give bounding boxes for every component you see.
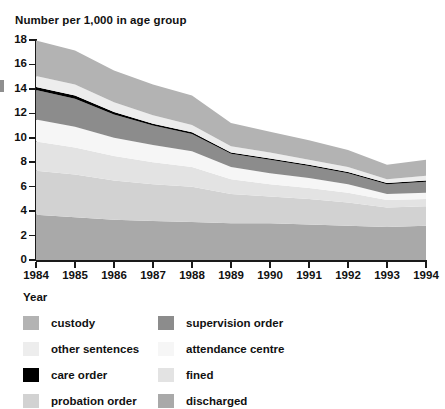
x-axis-tick	[230, 262, 232, 268]
y-axis-tick-label: 6	[1, 181, 27, 193]
x-axis-tick	[35, 262, 37, 268]
chart-page: Number per 1,000 in age group 1816141210…	[0, 0, 445, 409]
legend-swatch-icon	[158, 316, 174, 330]
y-axis-tick-label: 0	[1, 254, 27, 266]
y-axis-tick-label: 16	[1, 58, 27, 70]
legend-item-attendance-centre[interactable]: attendance centre	[158, 342, 378, 356]
legend-item-label: discharged	[186, 395, 247, 407]
legend-item-fined[interactable]: fined	[158, 368, 378, 382]
plot-area	[36, 40, 426, 260]
x-axis-tick-label: 1988	[170, 270, 214, 282]
y-axis-tick-label: 10	[1, 132, 27, 144]
legend-item-custody[interactable]: custody	[23, 316, 158, 330]
legend-swatch-icon	[23, 368, 39, 382]
x-axis-tick-label: 1984	[14, 270, 58, 282]
legend-swatch-icon	[23, 342, 39, 356]
x-axis-tick-label: 1991	[287, 270, 331, 282]
x-axis-tick	[386, 262, 388, 268]
x-axis-tick	[269, 262, 271, 268]
y-axis-tick-label: 14	[1, 83, 27, 95]
y-axis-tick	[29, 113, 35, 115]
y-axis-tick	[29, 64, 35, 66]
x-axis-tick-label: 1990	[248, 270, 292, 282]
x-axis-tick	[425, 262, 427, 268]
legend-item-supervision-order[interactable]: supervision order	[158, 316, 378, 330]
legend-swatch-icon	[158, 394, 174, 408]
y-axis-tick	[29, 186, 35, 188]
legend-item-label: attendance centre	[186, 343, 284, 355]
legend-item-probation-order[interactable]: probation order	[23, 394, 158, 408]
x-axis-tick-label: 1993	[365, 270, 409, 282]
legend-swatch-icon	[23, 394, 39, 408]
x-axis-tick	[74, 262, 76, 268]
legend-row: custodysupervision order	[23, 310, 423, 336]
y-axis-tick	[29, 259, 35, 261]
legend-swatch-icon	[158, 368, 174, 382]
x-axis-tick	[113, 262, 115, 268]
legend-item-care-order[interactable]: care order	[23, 368, 158, 382]
x-axis-tick	[347, 262, 349, 268]
x-axis-tick-label: 1992	[326, 270, 370, 282]
y-axis-tick	[29, 235, 35, 237]
x-axis-tick-label: 1985	[53, 270, 97, 282]
y-axis-tick-label: 8	[1, 156, 27, 168]
legend-swatch-icon	[158, 342, 174, 356]
y-axis-tick	[29, 137, 35, 139]
y-axis-tick-label: 2	[1, 230, 27, 242]
legend-row: care orderfined	[23, 362, 423, 388]
x-axis-title: Year	[23, 291, 47, 303]
legend-item-label: care order	[51, 369, 107, 381]
y-axis-tick	[29, 88, 35, 90]
x-axis-tick-label: 1989	[209, 270, 253, 282]
x-axis-tick	[152, 262, 154, 268]
page-title: Number per 1,000 in age group	[15, 14, 187, 26]
y-axis-tick-label: 18	[1, 34, 27, 46]
legend-item-other-sentences[interactable]: other sentences	[23, 342, 158, 356]
legend-item-label: other sentences	[51, 343, 139, 355]
y-axis-tick-label: 4	[1, 205, 27, 217]
legend-item-label: fined	[186, 369, 213, 381]
x-axis-tick-label: 1986	[92, 270, 136, 282]
x-axis-tick-label: 1987	[131, 270, 175, 282]
legend-row: probation orderdischarged	[23, 388, 423, 409]
stacked-area-chart	[36, 40, 426, 260]
x-axis-tick	[191, 262, 193, 268]
y-axis-tick	[29, 210, 35, 212]
legend-item-label: supervision order	[186, 317, 283, 329]
legend-item-label: probation order	[51, 395, 137, 407]
chart-legend: custodysupervision orderother sentencesa…	[23, 310, 423, 409]
y-axis-tick	[29, 39, 35, 41]
x-axis-tick	[308, 262, 310, 268]
y-axis-tick-label: 12	[1, 107, 27, 119]
y-axis-tick	[29, 161, 35, 163]
legend-row: other sentencesattendance centre	[23, 336, 423, 362]
legend-swatch-icon	[23, 316, 39, 330]
legend-item-label: custody	[51, 317, 95, 329]
legend-item-discharged[interactable]: discharged	[158, 394, 378, 408]
x-axis-tick-label: 1994	[404, 270, 445, 282]
